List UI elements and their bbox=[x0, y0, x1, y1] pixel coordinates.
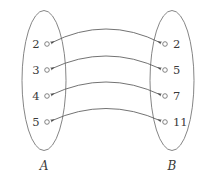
set-b-node-1[interactable] bbox=[163, 42, 168, 47]
set-a-node-2[interactable] bbox=[45, 68, 50, 73]
set-a-node-4[interactable] bbox=[45, 120, 50, 125]
set-b-node-2[interactable] bbox=[163, 68, 168, 73]
set-b-node-3[interactable] bbox=[163, 94, 168, 99]
set-b-name-label: B bbox=[167, 159, 177, 173]
set-b-element-label-1: 2 bbox=[173, 37, 180, 51]
mapping-arc-4[interactable] bbox=[51, 109, 161, 122]
set-b-node-4[interactable] bbox=[163, 120, 168, 125]
set-a-name-label: A bbox=[39, 159, 49, 173]
mapping-arcs-group bbox=[51, 29, 161, 121]
mapping-arc-2[interactable] bbox=[51, 56, 161, 69]
set-a-element-label-2: 3 bbox=[32, 63, 39, 77]
set-b-element-label-2: 5 bbox=[173, 63, 180, 77]
diagram-canvas: 2 3 4 5 A 2 5 7 11 B bbox=[0, 0, 204, 182]
mapping-arc-1[interactable] bbox=[51, 29, 161, 43]
set-a-element-label-4: 5 bbox=[32, 115, 39, 129]
mapping-diagram: 2 3 4 5 A 2 5 7 11 B bbox=[0, 0, 204, 182]
set-a-node-1[interactable] bbox=[45, 42, 50, 47]
set-b-group: 2 5 7 11 B bbox=[150, 11, 194, 174]
set-a-ellipse bbox=[22, 11, 66, 151]
set-b-element-label-3: 7 bbox=[173, 89, 180, 103]
set-a-node-3[interactable] bbox=[45, 94, 50, 99]
set-b-ellipse bbox=[150, 11, 194, 151]
set-a-element-label-3: 4 bbox=[32, 89, 39, 103]
set-b-element-label-4: 11 bbox=[173, 115, 188, 129]
mapping-arc-3[interactable] bbox=[51, 82, 161, 95]
set-a-element-label-1: 2 bbox=[32, 37, 39, 51]
